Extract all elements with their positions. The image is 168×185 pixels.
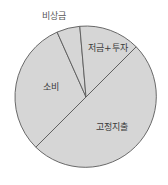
pie-chart: 비상금 저금+투자 소비 고정지출 — [0, 0, 168, 185]
label-savings-investment: 저금+투자 — [88, 43, 129, 53]
label-fixed-expenses: 고정지출 — [96, 122, 128, 132]
label-emergency-fund: 비상금 — [42, 11, 66, 21]
label-spending: 소비 — [43, 82, 59, 92]
